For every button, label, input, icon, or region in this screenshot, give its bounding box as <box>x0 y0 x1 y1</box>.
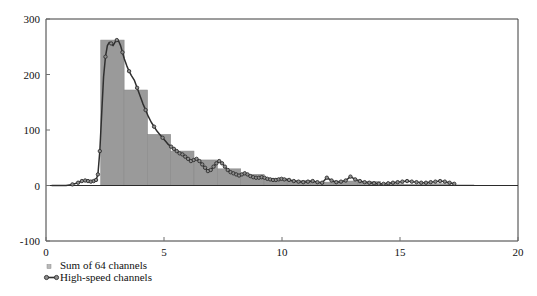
highspeed-marker <box>358 179 361 182</box>
highspeed-marker <box>161 136 164 139</box>
highspeed-marker <box>372 182 375 185</box>
highspeed-marker <box>396 180 399 183</box>
highspeed-marker <box>311 179 314 182</box>
y-tick-label: 0 <box>35 180 41 192</box>
x-tick-label: 10 <box>277 246 289 258</box>
highspeed-marker <box>320 181 323 184</box>
highspeed-marker <box>410 180 413 183</box>
highspeed-marker <box>292 179 295 182</box>
highspeed-marker <box>405 179 408 182</box>
highspeed-marker <box>283 178 286 181</box>
highspeed-marker <box>127 69 130 72</box>
highspeed-marker <box>135 86 138 89</box>
chart-legend: Sum of 64 channels High-speed channels <box>44 259 152 283</box>
highspeed-marker <box>212 165 215 168</box>
highspeed-marker <box>424 181 427 184</box>
highspeed-marker <box>391 181 394 184</box>
x-tick-label: 0 <box>43 246 49 258</box>
highspeed-marker <box>80 179 83 182</box>
highspeed-marker <box>377 182 380 185</box>
legend-label-highspeed: High-speed channels <box>60 271 152 283</box>
highspeed-marker <box>115 38 118 41</box>
highspeed-marker <box>223 165 226 168</box>
highspeed-marker <box>152 125 155 128</box>
highspeed-marker <box>316 180 319 183</box>
highspeed-marker <box>209 168 212 171</box>
chart-canvas: -100010020030005101520 Sum of 64 channel… <box>0 0 537 296</box>
legend-label-sum: Sum of 64 channels <box>60 259 147 271</box>
highspeed-marker <box>325 176 328 179</box>
highspeed-marker <box>438 179 441 182</box>
highspeed-marker <box>429 180 432 183</box>
highspeed-marker <box>201 163 204 166</box>
highspeed-marker <box>220 162 223 165</box>
legend-marker-highspeed-right-icon <box>54 275 58 279</box>
highspeed-marker <box>306 180 309 183</box>
highspeed-marker <box>453 182 456 185</box>
highspeed-marker <box>448 181 451 184</box>
highspeed-marker <box>349 175 352 178</box>
chart-background <box>0 0 537 296</box>
highspeed-marker <box>443 180 446 183</box>
highspeed-marker <box>144 108 147 111</box>
highspeed-marker <box>335 180 338 183</box>
y-tick-label: 300 <box>24 13 41 25</box>
highspeed-marker <box>434 180 437 183</box>
highspeed-marker <box>76 181 79 184</box>
highspeed-marker <box>198 159 201 162</box>
highspeed-marker <box>98 149 101 152</box>
histogram-bar <box>194 160 217 186</box>
y-tick-label: 200 <box>24 69 41 81</box>
legend-marker-highspeed-left-icon <box>44 275 48 279</box>
highspeed-marker <box>71 183 74 186</box>
y-tick-label: -100 <box>20 235 41 247</box>
highspeed-marker <box>339 180 342 183</box>
x-tick-label: 15 <box>395 246 407 258</box>
highspeed-marker <box>415 180 418 183</box>
highspeed-marker <box>121 51 124 54</box>
highspeed-marker <box>363 180 366 183</box>
highspeed-marker <box>330 179 333 182</box>
highspeed-marker <box>401 180 404 183</box>
highspeed-marker <box>94 178 97 181</box>
chart-figure: -100010020030005101520 Sum of 64 channel… <box>0 0 537 296</box>
highspeed-marker <box>382 182 385 185</box>
highspeed-marker <box>203 166 206 169</box>
highspeed-marker <box>387 182 390 185</box>
highspeed-marker <box>353 178 356 181</box>
x-tick-label: 5 <box>161 246 167 258</box>
highspeed-marker <box>96 173 99 176</box>
highspeed-marker <box>287 178 290 181</box>
highspeed-marker <box>420 181 423 184</box>
highspeed-marker <box>368 181 371 184</box>
highspeed-marker <box>297 180 300 183</box>
highspeed-marker <box>344 179 347 182</box>
legend-marker-sum-icon <box>47 265 51 269</box>
y-tick-label: 100 <box>24 124 41 136</box>
x-tick-label: 20 <box>513 246 525 258</box>
highspeed-marker <box>104 55 107 58</box>
highspeed-marker <box>302 180 305 183</box>
highspeed-marker <box>109 42 112 45</box>
